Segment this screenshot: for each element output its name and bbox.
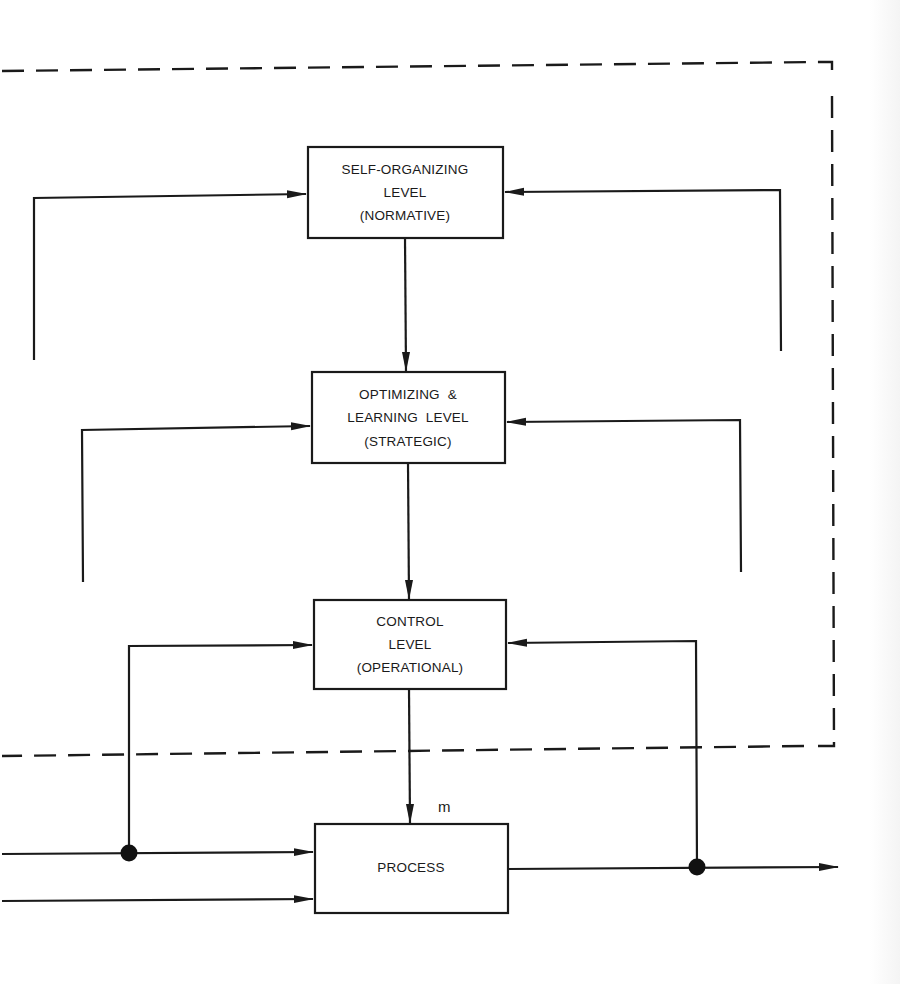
optimizing-learning-level-box: OPTIMIZING & LEARNING LEVEL (STRATEGIC) (312, 372, 505, 463)
control-line-3: (OPERATIONAL) (357, 660, 464, 675)
self-organizing-line-1: SELF-ORGANIZING (342, 162, 469, 177)
arrow-self-to-optimizing (405, 238, 406, 371)
arrow-optimizing-to-control (408, 463, 409, 599)
control-line-2: LEVEL (388, 637, 431, 652)
control-line-1: CONTROL (376, 614, 444, 629)
input-junction-dot (121, 845, 138, 862)
right-feedback-to-optimizing (507, 420, 741, 572)
control-level-box: CONTROL LEVEL (OPERATIONAL) (314, 600, 506, 689)
arrow-control-to-process (409, 689, 410, 823)
process-output (508, 867, 838, 869)
process-input-1 (2, 852, 313, 854)
self-organizing-line-2: LEVEL (383, 185, 426, 200)
left-feedback-to-optimizing (82, 426, 310, 582)
control-hierarchy-diagram: SELF-ORGANIZING LEVEL (NORMATIVE) OPTIMI… (0, 0, 900, 984)
output-branch-to-control (508, 641, 697, 867)
process-label: PROCESS (377, 860, 444, 875)
optimizing-line-1: OPTIMIZING & (359, 387, 457, 402)
right-feedback-to-self-organizing (505, 190, 781, 351)
optimizing-line-3: (STRATEGIC) (364, 434, 451, 449)
process-input-2 (2, 899, 313, 901)
self-organizing-level-box: SELF-ORGANIZING LEVEL (NORMATIVE) (308, 147, 503, 238)
optimizing-line-2: LEARNING LEVEL (347, 410, 469, 425)
process-box: PROCESS (315, 824, 508, 913)
manipulated-variable-label: m (438, 798, 451, 815)
output-junction-dot (689, 859, 706, 876)
input-branch-to-control (129, 645, 312, 853)
self-organizing-line-3: (NORMATIVE) (360, 208, 450, 223)
left-feedback-to-self-organizing (34, 194, 306, 360)
